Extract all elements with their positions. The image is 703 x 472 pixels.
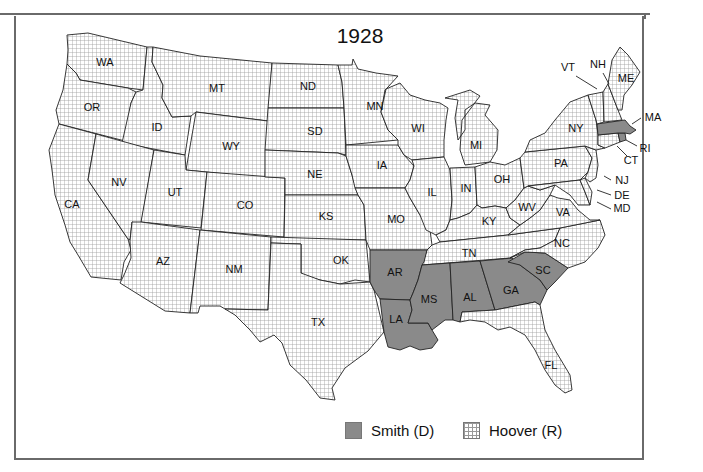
label-VA: VA (556, 206, 571, 218)
label-CT: CT (624, 154, 639, 166)
label-DE: DE (614, 189, 629, 201)
label-MN: MN (366, 100, 383, 112)
label-NY: NY (568, 122, 584, 134)
label-WV: WV (518, 201, 536, 213)
label-MS: MS (421, 293, 438, 305)
hoover-swatch (463, 422, 480, 439)
leader-NH (603, 73, 609, 84)
label-MA: MA (645, 111, 662, 123)
label-VT: VT (561, 61, 575, 73)
legend-hoover-label: Hoover (R) (489, 422, 562, 439)
label-NV: NV (111, 176, 127, 188)
label-WI: WI (411, 122, 424, 134)
label-MI: MI (470, 139, 482, 151)
label-KS: KS (319, 210, 334, 222)
label-ND: ND (300, 80, 316, 92)
label-LA: LA (389, 313, 403, 325)
label-MO: MO (387, 213, 405, 225)
state-FL[interactable] (460, 302, 572, 393)
label-IL: IL (427, 186, 436, 198)
label-TN: TN (462, 247, 477, 259)
smith-swatch (345, 422, 362, 439)
label-NM: NM (225, 263, 242, 275)
label-UT: UT (168, 186, 183, 198)
state-AZ[interactable] (120, 222, 200, 313)
label-FL: FL (545, 359, 558, 371)
label-IA: IA (377, 159, 388, 171)
label-RI: RI (640, 142, 651, 154)
leader-NJ (604, 176, 611, 180)
leader-CT (617, 146, 627, 156)
label-AZ: AZ (156, 255, 170, 267)
label-ME: ME (618, 72, 635, 84)
legend-hoover: Hoover (R) (463, 420, 562, 440)
leader-MA (632, 118, 641, 124)
label-MD: MD (613, 202, 630, 214)
label-NE: NE (307, 168, 322, 180)
label-WY: WY (222, 140, 240, 152)
label-AL: AL (463, 291, 476, 303)
label-OK: OK (333, 254, 350, 266)
label-NJ: NJ (615, 174, 628, 186)
label-ID: ID (152, 121, 163, 133)
state-SD[interactable] (265, 108, 346, 155)
label-PA: PA (554, 157, 569, 169)
label-SC: SC (535, 264, 550, 276)
label-WA: WA (96, 56, 114, 68)
leader-MD (597, 202, 611, 209)
label-OR: OR (84, 101, 101, 113)
label-GA: GA (503, 284, 520, 296)
state-CT[interactable] (598, 133, 620, 148)
label-CA: CA (64, 198, 80, 210)
state-MI[interactable] (445, 90, 498, 165)
label-IN: IN (461, 182, 472, 194)
leader-VT (576, 76, 597, 89)
label-KY: KY (482, 215, 497, 227)
label-NC: NC (554, 237, 570, 249)
label-CO: CO (237, 199, 254, 211)
label-AR: AR (387, 266, 402, 278)
leader-RI (626, 140, 637, 146)
label-OH: OH (494, 173, 511, 185)
label-TX: TX (311, 316, 326, 328)
us-election-map: WA OR CA ID NV MT WY UT CO AZ NM ND SD N… (0, 0, 703, 472)
label-SD: SD (307, 125, 322, 137)
label-MT: MT (209, 82, 225, 94)
label-NH: NH (590, 58, 606, 70)
legend-smith-label: Smith (D) (371, 422, 434, 439)
leader-DE (597, 190, 611, 195)
legend-smith: Smith (D) (345, 420, 434, 440)
